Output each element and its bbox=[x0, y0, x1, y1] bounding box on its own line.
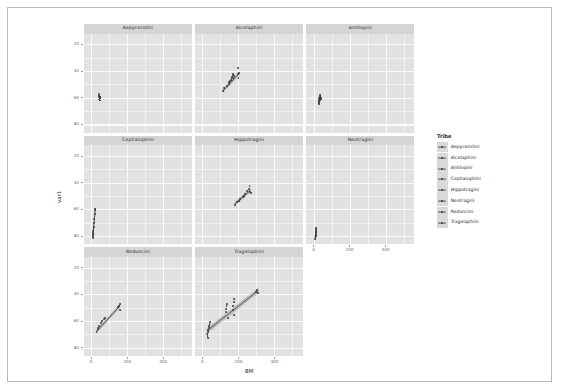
legend-item-label: Antilopini bbox=[451, 166, 473, 171]
facet-panel-hippotragini bbox=[195, 145, 303, 244]
legend-item-label: Reduncini bbox=[451, 210, 474, 215]
facet-strip-neotragini: Neotragini bbox=[306, 136, 414, 146]
data-point bbox=[226, 303, 228, 305]
legend-key-swatch bbox=[437, 142, 448, 153]
y-tick-label: 80 bbox=[65, 346, 79, 350]
regression-fit bbox=[306, 34, 414, 133]
legend-item[interactable]: Neotragini bbox=[437, 196, 481, 207]
y-tick-label: 20 bbox=[65, 154, 79, 158]
facet-panel-antilopini bbox=[306, 34, 414, 133]
facet-panel-alcelaphini bbox=[195, 34, 303, 133]
regression-fit bbox=[195, 145, 303, 244]
legend-key-swatch bbox=[437, 174, 448, 185]
y-tick-label: 20 bbox=[65, 42, 79, 46]
y-tick-label: 20 bbox=[65, 266, 79, 270]
y-tick-mark bbox=[81, 71, 83, 72]
y-tick-mark bbox=[81, 236, 83, 237]
data-point bbox=[93, 218, 95, 220]
legend-key-swatch bbox=[437, 196, 448, 207]
y-tick-mark bbox=[81, 294, 83, 295]
data-point bbox=[315, 235, 317, 237]
x-tick-label: 200 bbox=[340, 248, 360, 252]
regression-fit bbox=[195, 34, 303, 133]
data-point bbox=[207, 329, 209, 331]
legend-title: Tribe bbox=[437, 134, 481, 139]
data-point bbox=[99, 100, 101, 102]
data-point bbox=[233, 298, 235, 300]
data-point bbox=[226, 305, 228, 307]
legend-item[interactable]: Aepycerotini bbox=[437, 142, 481, 153]
data-point bbox=[225, 308, 227, 310]
y-tick-label: 60 bbox=[65, 96, 79, 100]
legend-key-point bbox=[441, 179, 443, 181]
data-point bbox=[318, 103, 320, 105]
legend-key-swatch bbox=[437, 153, 448, 164]
y-tick-label: 80 bbox=[65, 234, 79, 238]
data-point bbox=[249, 185, 251, 187]
y-tick-label: 40 bbox=[65, 292, 79, 296]
facet-panel-neotragini bbox=[306, 145, 414, 244]
legend-key-point bbox=[441, 211, 443, 213]
legend-item[interactable]: Cephalophini bbox=[437, 174, 481, 185]
facet-strip-antilopini: Antilopini bbox=[306, 24, 414, 34]
data-point bbox=[92, 232, 94, 234]
data-point bbox=[233, 314, 235, 316]
data-point bbox=[93, 222, 95, 224]
legend-key-swatch bbox=[437, 185, 448, 196]
facet-strip-label: Alcelaphini bbox=[236, 26, 263, 31]
x-tick-label: 400 bbox=[153, 360, 173, 364]
data-point bbox=[207, 337, 209, 339]
facet-panel-cephalophini bbox=[84, 145, 192, 244]
y-tick-label: 60 bbox=[65, 207, 79, 211]
legend-item[interactable]: Alcelaphini bbox=[437, 153, 481, 164]
data-point bbox=[208, 327, 210, 329]
data-point bbox=[320, 97, 322, 99]
regression-fit bbox=[306, 145, 414, 244]
data-point bbox=[94, 208, 96, 210]
x-tick-label: 200 bbox=[117, 360, 137, 364]
legend-key-point bbox=[441, 189, 443, 191]
data-point bbox=[232, 305, 234, 307]
data-point bbox=[209, 321, 211, 323]
regression-fit bbox=[84, 34, 192, 133]
legend-item[interactable]: Hippotragini bbox=[437, 185, 481, 196]
data-point bbox=[208, 325, 210, 327]
regression-fit bbox=[84, 145, 192, 244]
legend-item[interactable]: Tragelaphini bbox=[437, 217, 481, 228]
data-point bbox=[232, 73, 234, 75]
data-point bbox=[250, 192, 252, 194]
data-point bbox=[256, 289, 258, 291]
legend-item-label: Aepycerotini bbox=[451, 145, 480, 150]
legend-key-swatch bbox=[437, 163, 448, 174]
data-point bbox=[226, 85, 228, 87]
data-point bbox=[92, 237, 94, 239]
y-tick-mark bbox=[81, 321, 83, 322]
facet-strip-label: Aepycerotini bbox=[123, 26, 154, 31]
data-point bbox=[238, 77, 240, 79]
legend-key-point bbox=[441, 222, 443, 224]
facet-strip-label: Antilopini bbox=[349, 26, 372, 31]
facet-strip-cephalophini: Cephalophini bbox=[84, 136, 192, 146]
facet-panel-tragelaphini bbox=[195, 257, 303, 356]
y-tick-mark bbox=[81, 44, 83, 45]
regression-fit bbox=[84, 257, 192, 356]
legend-item[interactable]: Antilopini bbox=[437, 163, 481, 174]
data-point bbox=[97, 329, 99, 331]
x-tick-label: 0 bbox=[81, 360, 101, 364]
data-point bbox=[233, 301, 235, 303]
legend-key-point bbox=[441, 200, 443, 202]
data-point bbox=[257, 292, 259, 294]
data-point bbox=[315, 239, 317, 241]
data-point bbox=[223, 87, 225, 89]
data-point bbox=[119, 303, 121, 305]
x-tick-label: 0 bbox=[192, 360, 212, 364]
facet-strip-label: Tragelaphini bbox=[234, 250, 264, 255]
data-point bbox=[209, 323, 211, 325]
facet-panel-aepycerotini bbox=[84, 34, 192, 133]
legend-item[interactable]: Reduncini bbox=[437, 206, 481, 217]
ggplot-figure: AepycerotiniAlcelaphiniAntilopiniCephalo… bbox=[8, 8, 553, 383]
legend-item-label: Neotragini bbox=[451, 199, 475, 204]
data-point bbox=[99, 96, 101, 98]
facet-strip-label: Hippotragini bbox=[234, 138, 264, 143]
data-point bbox=[238, 72, 240, 74]
